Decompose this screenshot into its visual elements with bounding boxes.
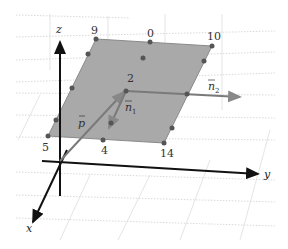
point-9 bbox=[94, 37, 99, 42]
label-0: 0 bbox=[147, 27, 154, 40]
diagram-svg: 9 0 10 2 5 4 14 z y x p n 1 n 2 bbox=[0, 0, 288, 249]
x-axis-label: x bbox=[26, 222, 33, 235]
point-edge-left-mid bbox=[70, 86, 75, 91]
point-edge-right-low bbox=[170, 126, 175, 131]
label-14: 14 bbox=[160, 147, 174, 160]
label-4: 4 bbox=[101, 144, 108, 157]
z-axis-label: z bbox=[55, 23, 62, 36]
point-0 bbox=[148, 40, 153, 45]
svg-text:p: p bbox=[78, 117, 85, 130]
label-5: 5 bbox=[42, 141, 49, 154]
point-5 bbox=[46, 134, 51, 139]
label-9: 9 bbox=[91, 24, 98, 37]
point-4 bbox=[101, 138, 106, 143]
point-edge-left-low bbox=[54, 118, 59, 123]
vector-label-p: p bbox=[78, 116, 85, 130]
point-n2-end bbox=[185, 92, 190, 97]
diagram-canvas: 9 0 10 2 5 4 14 z y x p n 1 n 2 bbox=[0, 0, 288, 249]
point-edge-left-top bbox=[86, 52, 91, 57]
svg-text:2: 2 bbox=[215, 87, 219, 95]
label-2: 2 bbox=[127, 72, 134, 85]
point-14 bbox=[162, 141, 167, 146]
vector-label-n2: n 2 bbox=[208, 80, 219, 95]
svg-text:1: 1 bbox=[132, 108, 136, 116]
y-axis bbox=[42, 161, 258, 174]
y-axis-label: y bbox=[263, 168, 271, 181]
point-n1-end bbox=[109, 121, 114, 126]
point-edge-right-top bbox=[202, 59, 207, 64]
point-mid bbox=[141, 56, 146, 61]
label-10: 10 bbox=[207, 30, 221, 43]
point-2 bbox=[124, 89, 129, 94]
point-10 bbox=[210, 44, 215, 49]
